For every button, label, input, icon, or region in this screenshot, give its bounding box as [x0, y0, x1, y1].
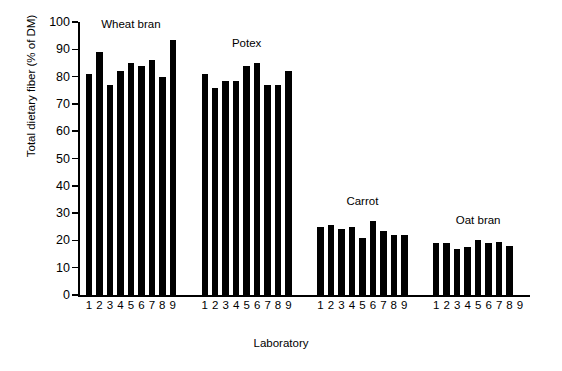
- bar: [380, 231, 386, 295]
- x-tick-label: 1: [315, 299, 325, 311]
- bar: [338, 229, 344, 295]
- bar: [349, 227, 355, 295]
- x-tick-label: 1: [200, 299, 210, 311]
- bar: [275, 85, 281, 295]
- x-tick-label: 6: [252, 299, 262, 311]
- bar: [433, 243, 439, 295]
- x-tick-label: 6: [136, 299, 146, 311]
- y-tick-mark: [72, 240, 78, 242]
- y-tick-mark: [72, 185, 78, 187]
- x-tick-label: 9: [168, 299, 178, 311]
- x-tick-label: 4: [115, 299, 125, 311]
- x-tick-label: 6: [483, 299, 493, 311]
- x-tick-label: 1: [431, 299, 441, 311]
- bar: [222, 81, 228, 295]
- group-title-wheat-bran: Wheat bran: [71, 18, 191, 30]
- bar: [170, 40, 176, 295]
- y-tick-mark: [72, 158, 78, 160]
- x-tick-label: 2: [326, 299, 336, 311]
- y-tick-label: 20: [56, 234, 70, 247]
- y-tick-mark: [72, 103, 78, 105]
- bar: [443, 243, 449, 295]
- x-tick-label: 8: [389, 299, 399, 311]
- x-tick-label: 2: [210, 299, 220, 311]
- bar: [475, 240, 481, 295]
- x-tick-label: 3: [220, 299, 230, 311]
- x-tick-label: 5: [126, 299, 136, 311]
- bar: [117, 71, 123, 295]
- x-tick-label: 4: [462, 299, 472, 311]
- x-tick-label: 3: [452, 299, 462, 311]
- bar: [391, 235, 397, 295]
- x-tick-label: 2: [441, 299, 451, 311]
- y-tick-label: 60: [56, 125, 70, 138]
- chart-container: Total dietary fiber (% of DM) 0102030405…: [0, 0, 562, 371]
- x-axis-title: Laboratory: [0, 337, 562, 349]
- x-tick-label: 7: [262, 299, 272, 311]
- x-tick-label: 7: [147, 299, 157, 311]
- bar: [454, 249, 460, 295]
- bar: [86, 74, 92, 295]
- plot-area: 0102030405060708090100 12345678912345678…: [78, 22, 530, 295]
- bar: [243, 66, 249, 295]
- y-tick-label: 80: [56, 70, 70, 83]
- x-tick-label: 9: [283, 299, 293, 311]
- y-tick-mark: [72, 130, 78, 132]
- bar: [370, 221, 376, 295]
- x-tick-label: 4: [231, 299, 241, 311]
- x-tick-label: 4: [347, 299, 357, 311]
- x-axis-line: [78, 295, 530, 297]
- bar: [107, 85, 113, 295]
- y-tick-label: 30: [56, 207, 70, 220]
- bar: [485, 243, 491, 295]
- x-tick-label: 9: [399, 299, 409, 311]
- x-tick-label: 7: [378, 299, 388, 311]
- x-tick-label: 8: [157, 299, 167, 311]
- y-axis-line: [78, 22, 80, 295]
- bar: [128, 63, 134, 295]
- group-title-carrot: Carrot: [302, 195, 422, 207]
- x-tick-label: 7: [494, 299, 504, 311]
- y-tick-label: 40: [56, 180, 70, 193]
- x-tick-label: 6: [368, 299, 378, 311]
- bar: [328, 225, 334, 295]
- x-tick-label: 5: [473, 299, 483, 311]
- y-tick-mark: [72, 76, 78, 78]
- x-tick-label: 8: [504, 299, 514, 311]
- bar: [506, 246, 512, 295]
- x-tick-label: 1: [84, 299, 94, 311]
- bar: [212, 88, 218, 295]
- x-tick-label: 3: [336, 299, 346, 311]
- bar: [464, 247, 470, 295]
- bar: [496, 242, 502, 295]
- bar: [359, 238, 365, 295]
- x-tick-label: 9: [515, 299, 525, 311]
- bar: [254, 63, 260, 295]
- bar: [401, 235, 407, 295]
- y-tick-label: 50: [56, 152, 70, 165]
- y-tick-mark: [72, 294, 78, 296]
- y-tick-label: 70: [56, 98, 70, 111]
- group-title-potex: Potex: [187, 37, 307, 49]
- y-tick-mark: [72, 267, 78, 269]
- bar: [317, 227, 323, 295]
- bar: [159, 77, 165, 295]
- y-tick-label: 90: [56, 43, 70, 56]
- y-tick-mark: [72, 212, 78, 214]
- x-tick-label: 8: [273, 299, 283, 311]
- bar: [202, 74, 208, 295]
- x-tick-label: 5: [241, 299, 251, 311]
- bar: [285, 71, 291, 295]
- x-tick-label: 3: [105, 299, 115, 311]
- bar: [264, 85, 270, 295]
- y-tick-mark: [72, 49, 78, 51]
- y-tick-label: 10: [56, 261, 70, 274]
- y-axis-title: Total dietary fiber (% of DM): [25, 0, 37, 201]
- bar: [96, 52, 102, 295]
- y-tick-label: 0: [63, 289, 70, 302]
- x-tick-label: 5: [357, 299, 367, 311]
- bar: [138, 66, 144, 295]
- y-tick-label: 100: [49, 16, 70, 29]
- group-title-oat-bran: Oat bran: [418, 214, 538, 226]
- bar: [233, 81, 239, 295]
